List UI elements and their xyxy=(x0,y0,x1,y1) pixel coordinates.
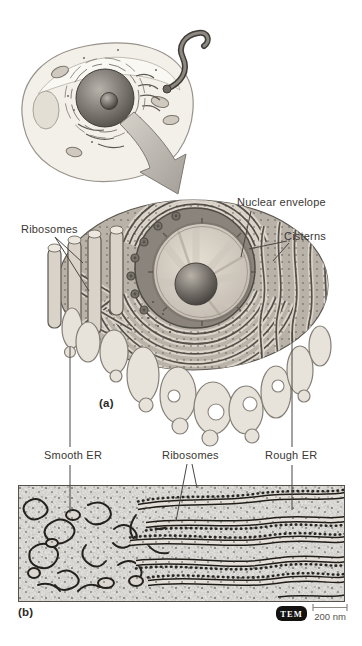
label-rough-er: Rough ER xyxy=(265,449,317,461)
nucleolus xyxy=(175,263,217,305)
tem-micrograph xyxy=(18,485,345,602)
endoplasmic-reticulum-figure: Nuclear envelope Ribosomes Cisterns (a) … xyxy=(0,0,362,646)
label-smooth-er: Smooth ER xyxy=(44,449,102,461)
whole-cell-inset-illustration xyxy=(8,6,233,201)
vacuole xyxy=(33,91,59,129)
tem-speckle-overlay xyxy=(18,485,345,602)
scale-bar-label: 200 nm xyxy=(310,611,350,622)
label-nuclear-envelope: Nuclear envelope xyxy=(237,196,326,208)
tem-badge: TEM xyxy=(276,606,307,621)
label-cisterns: Cisterns xyxy=(284,230,326,242)
label-panel-b: (b) xyxy=(18,606,33,618)
label-ribosomes-bottom: Ribosomes xyxy=(162,449,219,461)
inset-nucleolus xyxy=(101,93,118,110)
label-ribosomes-top: Ribosomes xyxy=(21,223,78,235)
label-panel-a: (a) xyxy=(99,397,114,409)
scale-bar xyxy=(313,604,347,611)
